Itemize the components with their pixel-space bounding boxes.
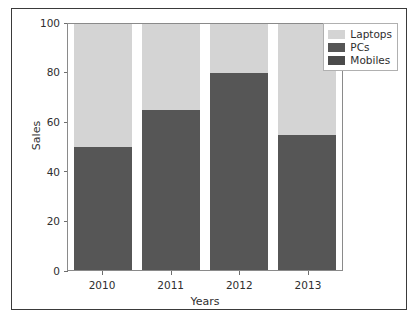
legend-item-label: Laptops (350, 29, 392, 40)
x-axis-tick-mark (308, 271, 309, 275)
bar-segment[interactable] (142, 110, 200, 270)
y-axis-tick-label: 0 (53, 266, 64, 277)
bar-segment[interactable] (210, 73, 268, 270)
x-axis-title: Years (67, 295, 343, 308)
x-axis-tick-label: 2012 (210, 279, 268, 291)
bar-segment[interactable] (74, 147, 132, 270)
x-axis-tick-label: 2011 (142, 279, 200, 291)
legend-item-label: PCs (350, 42, 369, 53)
legend-item[interactable]: Laptops (328, 28, 392, 40)
chart-figure: Sales 020406080100 2010201120122013 Year… (12, 9, 406, 309)
bar-segment[interactable] (74, 24, 132, 147)
x-axis-tick-label: 2013 (279, 279, 337, 291)
plot-area (67, 23, 343, 271)
chart-legend: LaptopsPCsMobiles (323, 23, 398, 71)
legend-swatch-icon (328, 56, 345, 65)
y-axis-tick-label: 60 (47, 117, 64, 128)
y-axis: 020406080100 (12, 23, 67, 271)
bar-segment[interactable] (278, 135, 336, 270)
x-axis-tick-mark (239, 271, 240, 275)
x-axis-tick: 2010 (73, 271, 131, 297)
bar-stack[interactable] (210, 24, 268, 270)
bar-segment[interactable] (210, 24, 268, 73)
legend-item[interactable]: Mobiles (328, 54, 392, 66)
bar-segment[interactable] (142, 24, 200, 110)
legend-item[interactable]: PCs (328, 41, 392, 53)
x-axis-tick-mark (171, 271, 172, 275)
legend-swatch-icon (328, 30, 345, 39)
x-axis-tick: 2011 (142, 271, 200, 297)
legend-item-label: Mobiles (350, 55, 390, 66)
x-axis-tick: 2012 (210, 271, 268, 297)
x-axis: 2010201120122013 (67, 271, 343, 297)
bar-stack[interactable] (142, 24, 200, 270)
bar-stack[interactable] (74, 24, 132, 270)
x-axis-tick-mark (102, 271, 103, 275)
y-axis-tick-label: 40 (47, 167, 64, 178)
y-axis-tick-label: 20 (47, 216, 64, 227)
x-axis-tick-label: 2010 (73, 279, 131, 291)
bars-layer (68, 24, 342, 270)
figure-frame: Sales 020406080100 2010201120122013 Year… (11, 8, 407, 310)
x-axis-tick: 2013 (279, 271, 337, 297)
y-axis-tick-label: 100 (40, 18, 64, 29)
legend-swatch-icon (328, 43, 345, 52)
y-axis-tick-label: 80 (47, 67, 64, 78)
